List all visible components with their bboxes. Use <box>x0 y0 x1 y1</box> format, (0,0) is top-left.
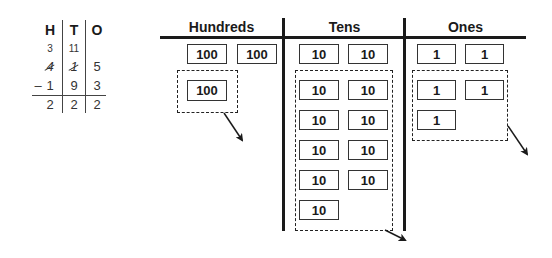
arrow-icon <box>508 126 527 154</box>
arrow-icon <box>224 113 242 140</box>
arrow-icon <box>385 230 405 240</box>
regroup-arrows <box>0 0 552 258</box>
